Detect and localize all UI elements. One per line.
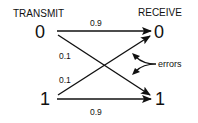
errors-callout-icon: [132, 53, 156, 75]
receive-node-0: 0: [154, 22, 164, 42]
errors-label: errors: [158, 59, 182, 69]
prob-0-to-1: 0.1: [59, 51, 71, 61]
prob-0-to-0: 0.9: [90, 18, 102, 28]
prob-1-to-1: 0.9: [90, 107, 102, 117]
binary-channel-diagram: TRANSMIT RECEIVE 0 1 0 1 0.9 0.1 0.1 0.9…: [0, 0, 198, 123]
receive-node-1: 1: [155, 89, 165, 109]
transmit-node-0: 0: [35, 22, 45, 42]
receive-title: RECEIVE: [138, 7, 182, 18]
transmit-node-1: 1: [40, 89, 50, 109]
transmit-title: TRANSMIT: [13, 8, 64, 19]
prob-1-to-0: 0.1: [59, 75, 71, 85]
